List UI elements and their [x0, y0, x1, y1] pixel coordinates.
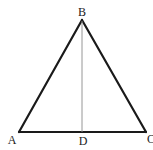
label-c: C: [147, 132, 153, 146]
triangle-diagram: B A D C: [0, 0, 153, 150]
label-d: D: [79, 134, 88, 148]
label-a: A: [8, 133, 17, 147]
label-b: B: [78, 5, 86, 19]
segment-ab: [19, 20, 82, 132]
segment-bc: [82, 20, 146, 132]
